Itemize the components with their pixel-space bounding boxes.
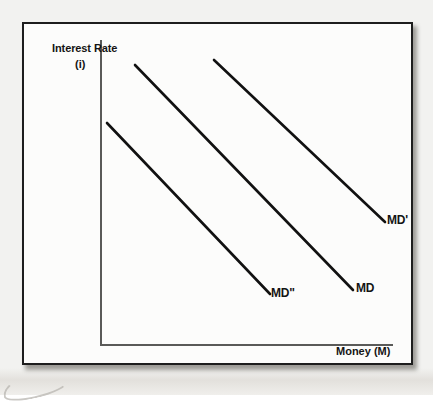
x-axis-label: Money (M) <box>336 345 390 357</box>
chart-svg <box>24 24 415 367</box>
y-axis-label-symbol: (i) <box>75 58 85 70</box>
curve-md-prime <box>214 60 385 222</box>
money-demand-chart <box>24 24 415 367</box>
curve-label-md: MD <box>356 281 374 295</box>
figure-frame <box>22 22 413 365</box>
curve-label-md-double-prime: MD" <box>271 286 295 300</box>
curve-md <box>135 65 353 290</box>
y-axis-label: Interest Rate <box>52 42 117 54</box>
curve-md-double-prime <box>107 123 270 294</box>
curve-label-md-prime: MD' <box>387 213 408 227</box>
